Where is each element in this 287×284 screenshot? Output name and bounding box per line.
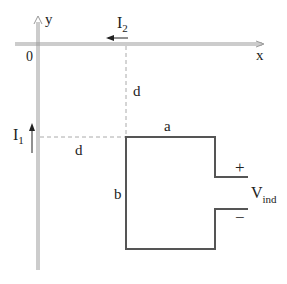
vertical-distance-label: d [133,83,141,99]
induced-voltage-label: Vind [251,184,277,205]
y-axis [34,16,42,270]
current-i1-arrow-icon [29,123,35,153]
conducting-loop [126,137,248,249]
origin-label: 0 [26,49,33,64]
diagram-canvas: y x 0 I2 I1 d d a b + − Vind [0,0,287,284]
loop-width-label: a [164,118,171,134]
y-axis-label: y [45,11,53,27]
current-i2-label: I2 [117,14,128,34]
y-axis-arrow-icon [34,16,42,24]
horizontal-distance-label: d [75,142,83,158]
current-i1-label: I1 [13,126,24,146]
minus-terminal-label: − [235,208,245,227]
x-axis [15,41,264,47]
loop-height-label: b [114,186,122,202]
plus-terminal-label: + [235,158,245,177]
current-i2-arrow-icon [106,35,128,41]
x-axis-label: x [256,47,264,63]
